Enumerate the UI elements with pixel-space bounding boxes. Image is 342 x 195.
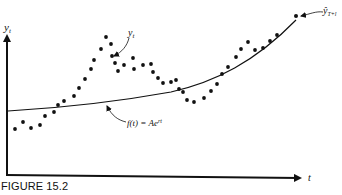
data-point [261, 46, 265, 50]
data-point [113, 61, 117, 65]
data-point [161, 81, 165, 85]
forecast-label-leader [301, 12, 323, 16]
data-point [83, 77, 87, 81]
data-point [110, 54, 114, 58]
data-label: yt [127, 27, 135, 40]
curve-label-leader [107, 106, 126, 122]
figure-canvas: yt t yt f(t) = Aert ŷT+l [0, 0, 342, 195]
data-point [209, 89, 213, 93]
data-point [177, 87, 181, 91]
data-label-leader [114, 38, 129, 56]
data-point [202, 96, 206, 100]
data-point [77, 86, 81, 90]
data-point [116, 69, 120, 73]
data-point [99, 47, 103, 51]
data-point [92, 58, 96, 62]
curve-label: f(t) = Aert [127, 118, 162, 128]
data-point [132, 67, 136, 71]
forecast-point [294, 14, 298, 18]
data-point [62, 99, 66, 103]
data-point [21, 120, 25, 124]
data-point [185, 98, 189, 102]
data-point [72, 94, 76, 98]
data-point [89, 67, 93, 71]
data-point [29, 126, 33, 130]
x-axis [6, 175, 300, 178]
data-point [246, 40, 250, 44]
data-point [220, 72, 224, 76]
data-point [234, 55, 238, 59]
observed-points [13, 33, 279, 131]
data-point [38, 123, 42, 127]
data-point [43, 114, 47, 118]
data-point [275, 33, 279, 37]
data-point [156, 76, 160, 80]
data-point [174, 78, 178, 82]
forecast-label: ŷT+l [322, 5, 337, 17]
data-point [109, 42, 113, 46]
data-point [56, 103, 60, 107]
y-axis-label: yt [3, 21, 12, 35]
data-point [122, 63, 126, 67]
x-axis-label: t [308, 172, 311, 183]
data-point [149, 62, 153, 66]
figure-caption: FIGURE 15.2 [1, 180, 68, 192]
data-point [226, 65, 230, 69]
data-point [151, 70, 155, 74]
data-point [268, 39, 272, 43]
data-point [141, 63, 145, 67]
data-point [13, 127, 17, 131]
data-point [181, 90, 185, 94]
data-point [104, 35, 108, 39]
data-point [253, 48, 257, 52]
data-point [192, 100, 196, 104]
data-point [52, 110, 56, 114]
data-point [239, 47, 243, 51]
data-point [215, 82, 219, 86]
data-point [131, 56, 135, 60]
data-point [169, 80, 173, 84]
